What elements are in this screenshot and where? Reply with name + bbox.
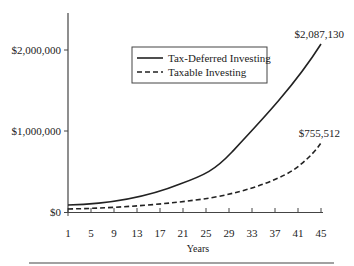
x-axis-label: Years — [187, 243, 209, 254]
svg-text:1: 1 — [65, 227, 71, 239]
svg-text:33: 33 — [247, 227, 259, 239]
y-tick-label-1m: $1,000,000 — [12, 125, 62, 137]
svg-text:25: 25 — [201, 227, 213, 239]
svg-text:37: 37 — [270, 227, 282, 239]
svg-text:45: 45 — [316, 227, 328, 239]
svg-text:21: 21 — [178, 227, 189, 239]
svg-text:17: 17 — [155, 227, 167, 239]
line-chart: $0 $1,000,000 $2,000,000 1 5 9 13 17 21 … — [0, 0, 354, 266]
legend: Tax-Deferred Investing Taxable Investing — [132, 47, 271, 83]
y-tick-label-0: $0 — [50, 206, 62, 218]
y-tick-label-2m: $2,000,000 — [12, 44, 62, 56]
legend-label-tax-deferred: Tax-Deferred Investing — [168, 52, 271, 64]
end-label-tax-deferred: $2,087,130 — [295, 28, 345, 40]
svg-text:13: 13 — [132, 227, 144, 239]
series-taxable — [68, 143, 321, 209]
x-tick-labels: 1 5 9 13 17 21 25 29 33 37 41 45 — [65, 227, 327, 239]
svg-text:29: 29 — [224, 227, 236, 239]
svg-text:5: 5 — [88, 227, 94, 239]
legend-label-taxable: Taxable Investing — [168, 66, 247, 78]
svg-text:9: 9 — [111, 227, 117, 239]
svg-text:41: 41 — [293, 227, 304, 239]
end-label-taxable: $755,512 — [299, 127, 340, 139]
